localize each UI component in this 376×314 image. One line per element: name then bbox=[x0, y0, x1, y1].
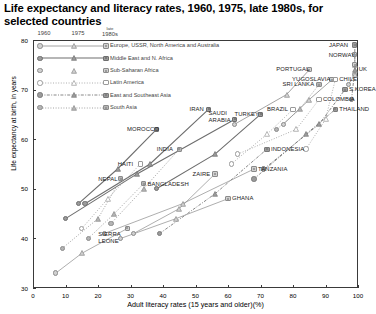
legend-marker-1975 bbox=[71, 55, 77, 61]
data-point bbox=[290, 107, 295, 112]
data-point bbox=[138, 161, 143, 166]
point-label: HAITI bbox=[118, 161, 134, 167]
series-line bbox=[66, 119, 235, 218]
marker-center bbox=[227, 198, 229, 200]
marker-center bbox=[105, 107, 107, 109]
point-label: INDIA bbox=[157, 146, 173, 152]
legend-label: Europe, USSR, North America and Australi… bbox=[110, 42, 219, 48]
legend-markers bbox=[36, 103, 286, 114]
x-tick bbox=[196, 285, 197, 288]
x-tick-label: 100 bbox=[348, 292, 368, 299]
point-label: GHANA bbox=[232, 195, 253, 201]
marker-center bbox=[105, 45, 107, 47]
point-label: JAPAN bbox=[329, 42, 348, 48]
legend-label: Sub-Saharan Africa bbox=[110, 67, 159, 73]
legend-label: Latin America bbox=[110, 79, 144, 85]
legend-item[interactable]: Latin America bbox=[36, 78, 286, 89]
point-label: COLOMBIA bbox=[323, 96, 355, 102]
legend-marker-1960 bbox=[37, 105, 42, 110]
legend-marker-1975 bbox=[71, 68, 77, 74]
legend-marker-1960 bbox=[37, 80, 42, 85]
x-tick bbox=[293, 285, 294, 288]
legend-label: Middle East and N. Africa bbox=[110, 55, 173, 61]
x-tick bbox=[131, 285, 132, 288]
x-tick-label: 40 bbox=[153, 292, 173, 299]
data-point bbox=[297, 106, 303, 112]
data-point bbox=[333, 77, 338, 82]
x-tick bbox=[261, 285, 262, 288]
point-label: MOROCCO bbox=[127, 126, 159, 132]
point-label: NEPAL bbox=[98, 176, 117, 182]
data-point bbox=[303, 131, 309, 137]
data-point bbox=[82, 201, 87, 206]
legend-marker-1960 bbox=[37, 68, 42, 73]
data-point bbox=[108, 221, 113, 226]
x-tick bbox=[228, 285, 229, 288]
x-tick-label: 60 bbox=[218, 292, 238, 299]
chart-title: Life expectancy and literacy rates, 1960… bbox=[4, 2, 360, 27]
data-point bbox=[212, 151, 218, 157]
legend-item[interactable]: Middle East and N. Africa bbox=[36, 53, 286, 64]
marker-center bbox=[344, 89, 346, 91]
legend-label: East and Southeast Asia bbox=[110, 92, 171, 98]
marker-center bbox=[253, 168, 255, 170]
data-point bbox=[105, 196, 111, 202]
data-point bbox=[180, 201, 186, 207]
x-tick bbox=[358, 285, 359, 288]
y-tick-label: 80 bbox=[12, 37, 28, 44]
legend-marker-1975 bbox=[71, 80, 77, 86]
data-point bbox=[229, 161, 234, 166]
x-tick-label: 90 bbox=[316, 292, 336, 299]
x-tick-label: 70 bbox=[251, 292, 271, 299]
y-tick-label: 30 bbox=[12, 285, 28, 292]
y-axis-title: Life expectancy at birth, in years bbox=[10, 59, 17, 189]
legend-markers bbox=[36, 78, 286, 89]
legend-header: 1960 bbox=[31, 30, 57, 36]
x-tick-label: 0 bbox=[23, 292, 43, 299]
x-tick-label: 30 bbox=[121, 292, 141, 299]
point-label: ZAIRE bbox=[193, 171, 211, 177]
data-point bbox=[251, 176, 256, 181]
point-label: S.KOREA bbox=[349, 86, 376, 92]
data-point bbox=[111, 211, 117, 217]
y-tick bbox=[33, 238, 36, 239]
point-label: INDONESIA bbox=[271, 146, 304, 152]
legend-marker-1980s bbox=[103, 80, 108, 85]
y-tick bbox=[33, 288, 36, 289]
legend-item[interactable]: Sub-Saharan Africa bbox=[36, 66, 286, 77]
legend-header: late1980s bbox=[97, 26, 123, 36]
point-label: NORWAY bbox=[329, 52, 355, 58]
point-label: SRI LANKA bbox=[283, 81, 315, 87]
marker-center bbox=[318, 84, 320, 86]
legend-header: 1975 bbox=[65, 30, 91, 36]
legend-marker-1960 bbox=[37, 92, 42, 97]
marker-center bbox=[354, 44, 356, 46]
data-point bbox=[323, 116, 329, 122]
legend-item[interactable]: East and Southeast Asia bbox=[36, 90, 286, 101]
y-tick bbox=[33, 139, 36, 140]
data-point bbox=[264, 131, 270, 137]
x-tick bbox=[98, 285, 99, 288]
legend-item[interactable]: Europe, USSR, North America and Australi… bbox=[36, 41, 286, 52]
legend-item[interactable]: South Asia bbox=[36, 103, 286, 114]
data-point bbox=[134, 171, 140, 177]
marker-center bbox=[214, 173, 216, 175]
x-tick-label: 80 bbox=[283, 292, 303, 299]
x-tick-label: 10 bbox=[56, 292, 76, 299]
data-point bbox=[281, 122, 286, 127]
data-point bbox=[95, 216, 101, 222]
legend-marker-1975 bbox=[71, 43, 77, 49]
point-label: TANZANIA bbox=[258, 166, 288, 172]
x-tick bbox=[163, 285, 164, 288]
point-label: SIERRALEONE bbox=[98, 231, 121, 244]
legend-marker-1960 bbox=[37, 56, 42, 61]
data-point bbox=[141, 186, 147, 192]
point-label: THAILAND bbox=[339, 106, 369, 112]
marker-center bbox=[105, 70, 107, 72]
data-point bbox=[212, 191, 218, 197]
x-tick-label: 50 bbox=[186, 292, 206, 299]
y-tick-label: 40 bbox=[12, 235, 28, 242]
data-point bbox=[115, 166, 121, 172]
legend-marker-1975 bbox=[71, 92, 77, 98]
